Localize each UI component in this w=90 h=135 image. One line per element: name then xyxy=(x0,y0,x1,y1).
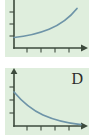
growth-curve-chart xyxy=(5,0,89,57)
exponential-decay-curve xyxy=(14,92,81,125)
x-axis-arrowhead-top xyxy=(81,45,88,52)
panel-label-d: D xyxy=(71,71,83,87)
chart-panel-top xyxy=(5,0,89,57)
exponential-growth-curve xyxy=(14,9,77,38)
chart-panel-bottom: D xyxy=(5,68,89,135)
x-axis-arrowhead-bottom xyxy=(81,123,88,130)
exponential-curves-figure: D xyxy=(0,0,90,135)
y-axis-arrowhead-bottom xyxy=(11,68,18,74)
